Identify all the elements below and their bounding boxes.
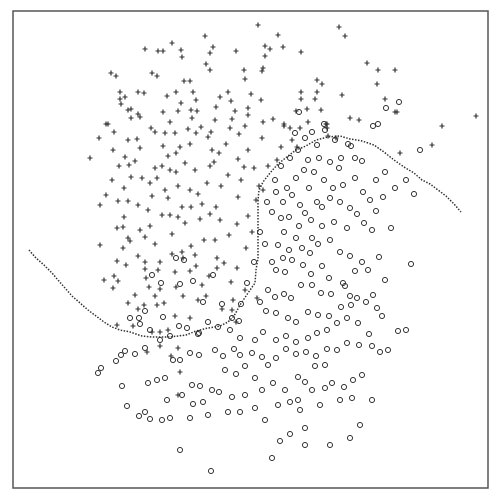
circle-marker [369, 227, 374, 232]
circle-marker [305, 157, 310, 162]
plus-marker [160, 164, 165, 169]
plus-marker [122, 186, 127, 191]
circle-marker [295, 374, 300, 379]
plus-marker [116, 279, 121, 284]
plus-marker [188, 316, 193, 321]
circle-marker [269, 209, 274, 214]
plus-marker [234, 49, 239, 54]
plus-marker [118, 97, 123, 102]
plus-marker [188, 142, 193, 147]
circle-marker [317, 402, 322, 407]
circle-marker [273, 310, 278, 315]
circle-marker [220, 353, 225, 358]
plus-marker [142, 91, 147, 96]
plus-marker [315, 78, 320, 83]
plus-marker [158, 260, 163, 265]
circle-marker [322, 385, 327, 390]
circle-marker [273, 189, 278, 194]
circle-marker [327, 159, 332, 164]
plus-marker [126, 138, 131, 143]
plus-marker [161, 144, 166, 149]
circle-marker [162, 375, 167, 380]
plus-marker [112, 274, 117, 279]
plus-marker [166, 154, 171, 159]
plus-marker [190, 116, 195, 121]
circle-marker [189, 382, 194, 387]
plus-marker [155, 74, 160, 79]
plus-marker [176, 346, 181, 351]
scatter-plot [0, 0, 503, 504]
circle-marker [308, 271, 313, 276]
series-circle-markers [95, 99, 422, 473]
plus-marker [143, 235, 148, 240]
circle-marker [347, 253, 352, 258]
plus-marker [246, 148, 251, 153]
plus-marker [219, 184, 224, 189]
plus-marker [135, 137, 140, 142]
circle-marker [359, 372, 364, 377]
circle-marker [293, 351, 298, 356]
circle-marker [212, 347, 217, 352]
plus-marker [111, 148, 116, 153]
plus-marker [320, 82, 325, 87]
circle-marker [118, 352, 123, 357]
plus-marker [305, 107, 310, 112]
plus-marker [375, 82, 380, 87]
plus-marker [229, 99, 234, 104]
circle-marker [302, 442, 307, 447]
circle-marker [273, 355, 278, 360]
circle-marker [222, 367, 227, 372]
series-plus-markers [88, 23, 479, 398]
plus-marker [143, 260, 148, 265]
circle-marker [293, 339, 298, 344]
plus-marker [250, 230, 255, 235]
circle-marker [249, 350, 254, 355]
circle-marker [417, 147, 422, 152]
circle-marker [170, 357, 175, 362]
circle-marker [177, 447, 182, 452]
plus-marker [189, 108, 194, 113]
plus-marker [180, 55, 185, 60]
circle-marker [376, 254, 381, 259]
plus-marker [226, 90, 231, 95]
plus-marker [168, 120, 173, 125]
plus-marker [298, 126, 303, 131]
plot-frame [13, 11, 488, 488]
plus-marker [235, 222, 240, 227]
plus-marker [226, 173, 231, 178]
plus-marker [243, 124, 248, 129]
plus-marker [233, 109, 238, 114]
circle-marker [159, 417, 164, 422]
circle-marker [252, 375, 257, 380]
circle-marker [314, 199, 319, 204]
circle-marker [257, 299, 262, 304]
circle-marker [113, 358, 118, 363]
plus-marker [243, 288, 248, 293]
plus-marker [178, 370, 183, 375]
plus-marker [200, 283, 205, 288]
circle-marker [354, 295, 359, 300]
plus-marker [259, 98, 264, 103]
circle-marker [306, 185, 311, 190]
plus-marker [158, 287, 163, 292]
circle-marker [244, 280, 249, 285]
plus-marker [196, 192, 201, 197]
plus-marker [340, 93, 345, 98]
circle-marker [352, 175, 357, 180]
circle-marker [313, 353, 318, 358]
circle-marker [327, 442, 332, 447]
plus-marker [166, 196, 171, 201]
plus-marker [133, 293, 138, 298]
circle-marker [200, 299, 205, 304]
plus-marker [123, 155, 128, 160]
plus-marker [117, 164, 122, 169]
plus-marker [279, 145, 284, 150]
circle-marker [379, 313, 384, 318]
plus-marker [126, 108, 131, 113]
circle-marker [278, 215, 283, 220]
circle-marker [286, 247, 291, 252]
circle-marker [326, 313, 331, 318]
plus-marker [102, 278, 107, 283]
plus-marker [97, 136, 102, 141]
plus-marker [142, 303, 147, 308]
